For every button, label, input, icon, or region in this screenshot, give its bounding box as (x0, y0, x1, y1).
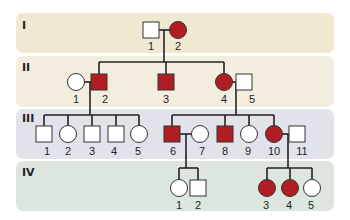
male-affected-symbol (164, 126, 180, 142)
female-unaffected-symbol (131, 126, 148, 143)
female-affected-symbol (216, 74, 233, 91)
female-affected-symbol (170, 22, 187, 39)
svg-text:3: 3 (89, 145, 95, 157)
male-unaffected-symbol (84, 126, 100, 142)
generation-label-III: III (22, 112, 34, 125)
svg-text:3: 3 (263, 199, 269, 211)
male-unaffected-symbol (236, 74, 252, 90)
svg-text:7: 7 (199, 145, 205, 157)
svg-text:1: 1 (44, 145, 50, 157)
generation-band-II (16, 56, 334, 107)
svg-text:5: 5 (308, 199, 314, 211)
generation-label-IV: IV (22, 166, 35, 179)
generation-label-I: I (22, 19, 26, 32)
male-affected-symbol (158, 74, 174, 90)
female-unaffected-symbol (192, 126, 209, 143)
svg-text:2: 2 (65, 145, 71, 157)
male-unaffected-symbol (143, 22, 159, 38)
svg-text:8: 8 (222, 145, 228, 157)
svg-text:11: 11 (296, 145, 307, 157)
female-unaffected-symbol (171, 180, 188, 197)
female-unaffected-symbol (241, 126, 258, 143)
svg-text:4: 4 (111, 145, 117, 157)
svg-text:1: 1 (73, 93, 79, 105)
generation-label-II: II (22, 61, 30, 74)
svg-text:4: 4 (286, 199, 292, 211)
male-unaffected-symbol (289, 126, 305, 142)
svg-text:3: 3 (163, 93, 169, 105)
male-affected-symbol (217, 126, 233, 142)
svg-text:5: 5 (249, 93, 255, 105)
female-unaffected-symbol (68, 74, 85, 91)
svg-text:1: 1 (148, 40, 154, 52)
svg-text:5: 5 (135, 145, 141, 157)
female-unaffected-symbol (304, 180, 321, 197)
male-unaffected-symbol (108, 126, 124, 142)
svg-text:2: 2 (195, 199, 201, 211)
male-affected-symbol (91, 74, 107, 90)
male-unaffected-symbol (36, 126, 52, 142)
male-unaffected-symbol (190, 180, 206, 196)
female-affected-symbol (282, 180, 299, 197)
svg-text:2: 2 (175, 40, 181, 52)
female-affected-symbol (266, 126, 283, 143)
female-affected-symbol (259, 180, 276, 197)
svg-text:1: 1 (176, 199, 182, 211)
pedigree-chart: I II III IV (0, 0, 350, 220)
svg-text:6: 6 (170, 145, 176, 157)
female-unaffected-symbol (60, 126, 77, 143)
svg-text:9: 9 (245, 145, 251, 157)
svg-text:2: 2 (102, 93, 108, 105)
svg-text:10: 10 (268, 145, 280, 157)
svg-text:4: 4 (221, 93, 227, 105)
